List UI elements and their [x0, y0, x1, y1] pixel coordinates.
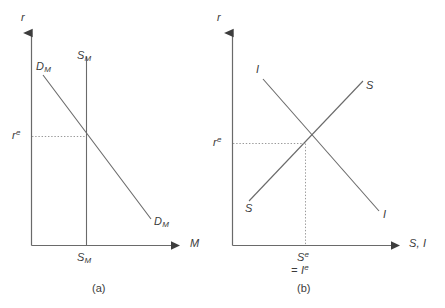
panel-a-supply-label-bottom: SM	[77, 252, 91, 265]
panel-b-saving-label-bottom: S	[245, 203, 253, 214]
panel-a-supply-label-top: SM	[77, 50, 91, 63]
figure-container: r M re SM SM DM DM (a) r S, I re I I S S…	[0, 0, 445, 308]
panel-b-equilibrium-quantity-superscript2: e	[304, 263, 308, 272]
panel-a-demand-curve	[43, 75, 151, 219]
panel-a-equilibrium-rate-label: re	[12, 129, 20, 141]
panel-a-demand-label-top: DM	[36, 61, 51, 74]
panel-a-demand-text-top: D	[36, 60, 44, 72]
panel-a-supply-subscript-bottom: M	[85, 256, 92, 265]
panel-b-equilibrium-quantity-text: S	[297, 251, 305, 263]
panel-b-equilibrium-rate-superscript: e	[217, 135, 221, 144]
diagram-canvas	[0, 0, 445, 308]
panel-a-demand-label-bottom: DM	[154, 216, 169, 229]
panel-a-x-axis-label: M	[190, 238, 199, 249]
panel-b-caption: (b)	[297, 283, 310, 294]
panel-a-axes	[32, 33, 180, 246]
panel-a-caption: (a)	[92, 283, 105, 294]
panel-a-demand-subscript-top: M	[44, 65, 51, 74]
panel-b-saving-label-top: S	[366, 80, 374, 91]
panel-a-y-axis-label: r	[21, 12, 25, 23]
panel-b-investment-label-bottom: I	[383, 209, 386, 220]
panel-b-x-axis-label: S, I	[409, 238, 426, 249]
panel-b-equilibrium-quantity-superscript: e	[305, 250, 309, 259]
panel-b-equilibrium-quantity-label: Se	[297, 251, 309, 263]
panel-b-equilibrium-quantity-text2: = I	[291, 264, 304, 276]
panel-a-supply-text-top: S	[77, 49, 85, 61]
panel-b-equilibrium-rate-label: re	[213, 136, 221, 148]
panel-a-supply-subscript-top: M	[85, 54, 92, 63]
panel-a-demand-subscript-bottom: M	[162, 220, 169, 229]
panel-b-investment-label-top: I	[256, 64, 259, 75]
panel-a-demand-text-bottom: D	[154, 215, 162, 227]
panel-a-equilibrium-rate-superscript: e	[16, 128, 20, 137]
panel-b-investment-curve	[263, 79, 379, 211]
panel-b-equilibrium-quantity-label2: = Ie	[291, 264, 309, 276]
panel-b-y-axis-label: r	[217, 12, 221, 23]
panel-a-supply-text-bottom: S	[77, 251, 85, 263]
